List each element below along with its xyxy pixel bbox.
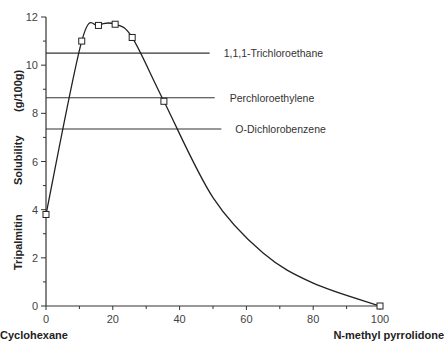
x-tick-label: 0: [43, 313, 49, 325]
x-axis: 020406080100: [43, 306, 389, 325]
x-axis-label-left: Cyclohexane: [0, 329, 68, 341]
data-point-marker: [129, 34, 135, 40]
x-tick-label: 60: [240, 313, 252, 325]
y-tick-label: 10: [26, 59, 38, 71]
solubility-chart: 024681012 020406080100 1,1,1-Trichloroet…: [0, 0, 447, 356]
y-tick-label: 6: [32, 156, 38, 168]
data-point-marker: [79, 38, 85, 44]
y-tick-label: 8: [32, 107, 38, 119]
data-markers: [43, 21, 383, 309]
reference-line-label: O-Dichlorobenzene: [235, 123, 326, 135]
x-tick-label: 100: [371, 313, 389, 325]
y-axis: 024681012: [26, 11, 46, 312]
data-point-marker: [95, 22, 101, 28]
data-point-marker: [112, 21, 118, 27]
x-axis-label-right: N-methyl pyrrolidone: [333, 329, 444, 341]
reference-lines: 1,1,1-TrichloroethanePerchloroethyleneO-…: [46, 47, 326, 135]
data-point-marker: [377, 303, 383, 309]
x-tick-label: 80: [307, 313, 319, 325]
y-tick-label: 12: [26, 11, 38, 23]
reference-line-label: 1,1,1-Trichloroethane: [224, 47, 324, 59]
x-tick-label: 20: [107, 313, 119, 325]
y-tick-label: 4: [32, 204, 38, 216]
data-point-marker: [43, 211, 49, 217]
y-axis-label: Tripalmitin Solubility (g/100g): [12, 69, 24, 270]
y-axis-label-part3: (g/100g): [12, 69, 24, 112]
x-tick-label: 40: [173, 313, 185, 325]
y-tick-label: 0: [32, 300, 38, 312]
reference-line-label: Perchloroethylene: [230, 92, 315, 104]
data-point-marker: [161, 98, 167, 104]
y-axis-label-part2: Solubility: [12, 135, 24, 185]
y-tick-label: 2: [32, 252, 38, 264]
y-axis-label-part1: Tripalmitin: [12, 214, 24, 270]
solubility-curve: [46, 22, 380, 306]
